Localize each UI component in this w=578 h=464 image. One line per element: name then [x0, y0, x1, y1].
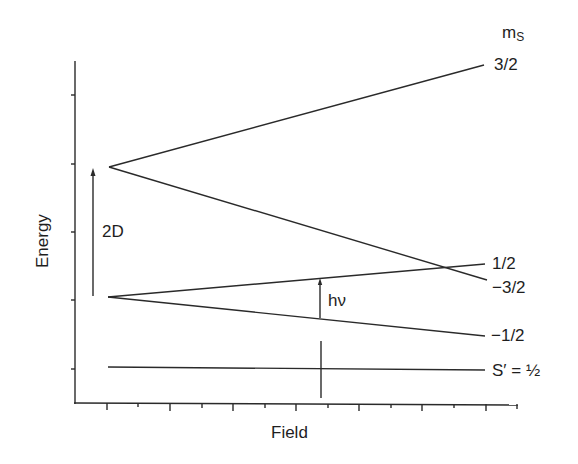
level-label-s-prime: S′ = ½ [492, 362, 540, 379]
level-line-1-2 [108, 264, 485, 297]
x-axis-label: Field [271, 424, 308, 441]
level-label-minus-3-2: −3/2 [492, 279, 526, 296]
level-label-3-2: 3/2 [494, 56, 518, 73]
energy-level-diagram [0, 0, 578, 464]
level-line-minus-1-2 [108, 297, 485, 336]
level-line-3-2 [109, 65, 484, 167]
level-label-minus-1-2: −1/2 [491, 327, 525, 344]
transition-label: hν [328, 292, 346, 309]
arrow-head-icon [91, 168, 96, 176]
level-line-s-prime [108, 367, 485, 370]
level-label-1-2: 1/2 [492, 255, 516, 272]
y-axis-label: Energy [34, 214, 51, 268]
level-line-minus-3-2 [109, 167, 487, 280]
zero-field-splitting-label: 2D [102, 223, 124, 240]
ms-header: mS [502, 24, 524, 43]
